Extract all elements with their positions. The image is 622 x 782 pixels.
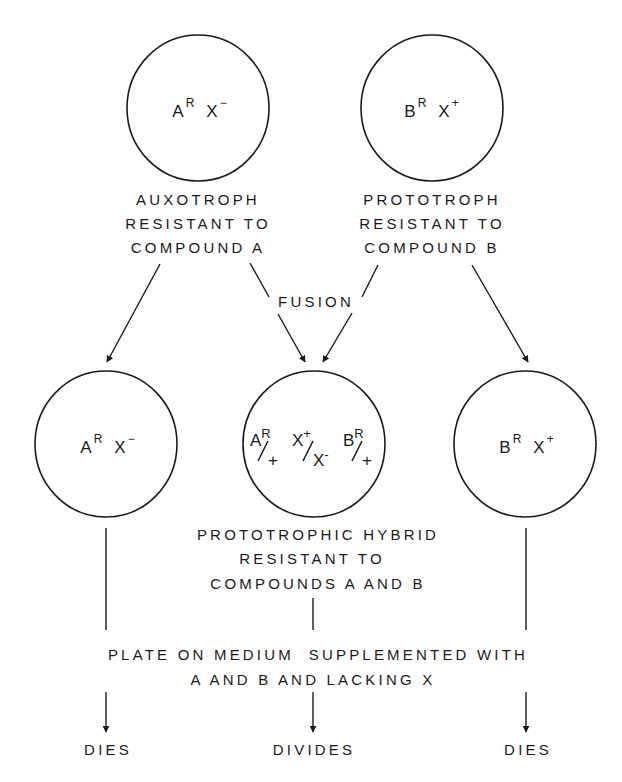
hybrid-label-line-2: RESISTANT TO [239, 551, 385, 566]
parent-b-genotype: BRX+ [404, 100, 459, 120]
parent-a-label-line-1: AUXOTROPH [136, 192, 260, 207]
outcome-unfused-a: DIES [84, 742, 132, 757]
hybrid-label-line-3: COMPOUNDS A AND B [210, 576, 425, 591]
arrow-parent-b-to-unfused-b [472, 265, 528, 362]
hybrid-allele-a-bottom: + [268, 452, 278, 469]
parent-a-label-line-2: RESISTANT TO [125, 216, 271, 231]
parent-b-label-line-1: PROTOTROPH [363, 192, 501, 207]
selection-step-line-1: PLATE ON MEDIUM SUPPLEMENTED WITH [108, 647, 528, 662]
hybrid-allele-x-bottom: X- [313, 452, 329, 469]
hybrid-label-line-1: PROTOTROPHIC HYBRID [197, 527, 439, 542]
parent-a-label-line-3: COMPOUND A [131, 240, 266, 255]
unfused-b-genotype: BRX+ [499, 436, 554, 456]
fusion-arrow-left [278, 314, 305, 362]
outcome-unfused-b: DIES [504, 742, 552, 757]
parent-a-genotype: ARX− [172, 100, 227, 120]
parent-b-label-line-2: RESISTANT TO [359, 216, 505, 231]
fusion-label: FUSION [278, 294, 354, 309]
hybrid-allele-b-bottom: + [362, 452, 372, 469]
selection-step-line-2: A AND B AND LACKING X [191, 672, 436, 687]
fusion-line-left-upper [250, 263, 269, 297]
arrow-parent-a-to-unfused-a [107, 264, 160, 362]
fusion-arrow-right [323, 313, 352, 362]
outcome-hybrid: DIVIDES [273, 742, 355, 757]
unfused-a-genotype: ARX− [80, 436, 135, 456]
diagram-canvas [0, 0, 622, 782]
parent-b-label-line-3: COMPOUND B [364, 240, 499, 255]
fusion-line-right-upper [362, 265, 378, 297]
